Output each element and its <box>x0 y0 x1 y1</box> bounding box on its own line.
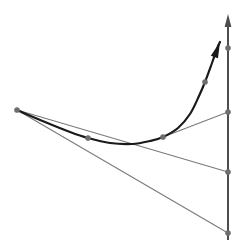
node-axis-secant-low-intercept <box>225 230 230 235</box>
node-curve-left-endpoint <box>14 107 19 112</box>
diagram-svg <box>0 0 242 246</box>
node-axis-upper <box>225 45 230 50</box>
node-axis-secant-mid-intercept <box>225 169 230 174</box>
background <box>0 0 242 246</box>
node-axis-tangent-intercept <box>225 109 230 114</box>
figure-canvas <box>0 0 242 246</box>
node-curve-upper <box>202 79 207 84</box>
node-curve-mid-right <box>160 134 165 139</box>
node-curve-mid-left <box>85 135 90 140</box>
